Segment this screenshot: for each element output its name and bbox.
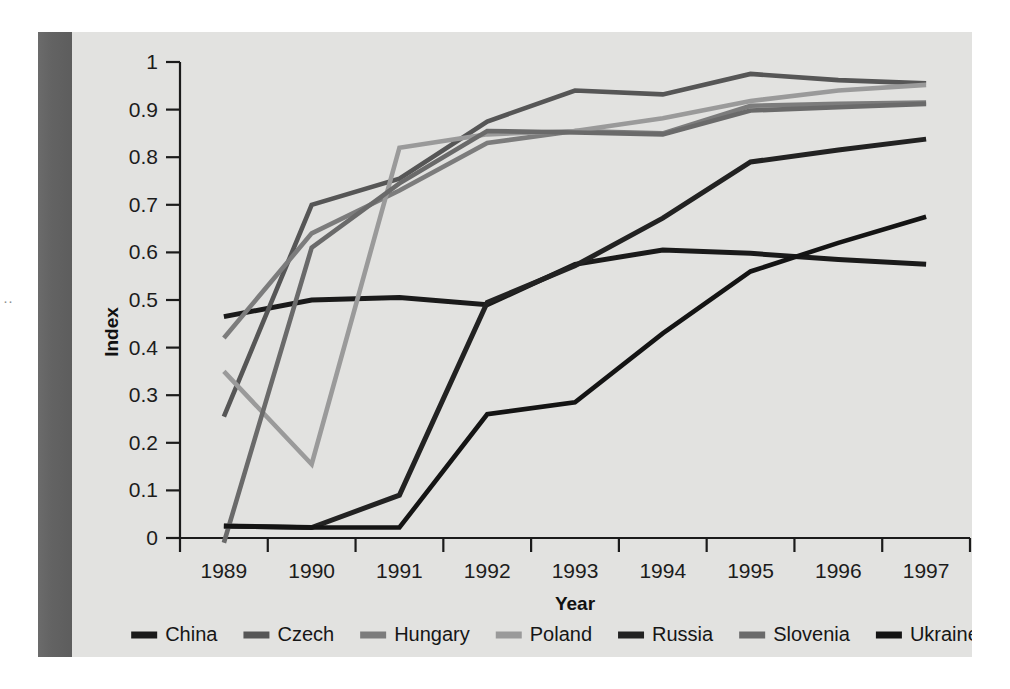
margin-mark: ··	[3, 297, 8, 313]
chart-container: 00.10.20.30.40.50.60.70.80.91 1989199019…	[72, 32, 972, 657]
y-tick-label: 0.2	[129, 431, 158, 454]
x-tick-label: 1993	[552, 559, 599, 582]
series-line-poland	[224, 85, 926, 464]
legend-label-russia: Russia	[652, 623, 714, 645]
legend-label-czech: Czech	[277, 623, 334, 645]
x-axis-title: Year	[555, 593, 596, 614]
x-tick-label: 1997	[903, 559, 950, 582]
y-tick-label: 0.7	[129, 193, 158, 216]
x-tick-label: 1996	[815, 559, 862, 582]
y-axis-title: Index	[101, 307, 122, 357]
x-tick-label: 1995	[727, 559, 774, 582]
y-tick-label: 0.8	[129, 145, 158, 168]
x-tick-label: 1990	[288, 559, 335, 582]
y-tick-label: 0.1	[129, 478, 158, 501]
y-tick-label: 0.4	[129, 336, 159, 359]
y-tick-label: 1	[146, 50, 158, 73]
x-tick-label: 1994	[639, 559, 686, 582]
x-axis-tick-labels: 198919901991199219931994199519961997	[201, 559, 950, 582]
series-line-hungary	[224, 102, 926, 338]
line-chart: 00.10.20.30.40.50.60.70.80.91 1989199019…	[72, 32, 972, 657]
data-series-group	[224, 74, 926, 543]
y-tick-label: 0.9	[129, 98, 158, 121]
book-gutter-shadow	[38, 32, 72, 657]
legend-label-poland: Poland	[530, 623, 592, 645]
y-tick-label: 0.5	[129, 288, 158, 311]
y-axis-ticks	[166, 62, 180, 538]
y-axis-tick-labels: 00.10.20.30.40.50.60.70.80.91	[129, 50, 159, 549]
x-tick-label: 1991	[376, 559, 423, 582]
x-axis-ticks	[180, 538, 970, 552]
series-line-slovenia	[224, 104, 926, 543]
legend-label-hungary: Hungary	[394, 623, 470, 645]
x-tick-label: 1992	[464, 559, 511, 582]
series-line-china	[224, 250, 926, 317]
legend-label-china: China	[165, 623, 218, 645]
y-tick-label: 0.6	[129, 240, 158, 263]
x-tick-label: 1989	[201, 559, 248, 582]
legend-label-ukraine: Ukraine	[910, 623, 972, 645]
series-line-czech	[224, 74, 926, 417]
y-tick-label: 0.3	[129, 383, 158, 406]
legend-label-slovenia: Slovenia	[773, 623, 851, 645]
screenshot-root: ·· 00.10.20.30.40.50.60.70.80.91 1989199…	[0, 0, 1010, 689]
legend: ChinaCzechHungaryPolandRussiaSloveniaUkr…	[131, 623, 972, 645]
y-tick-label: 0	[146, 526, 158, 549]
